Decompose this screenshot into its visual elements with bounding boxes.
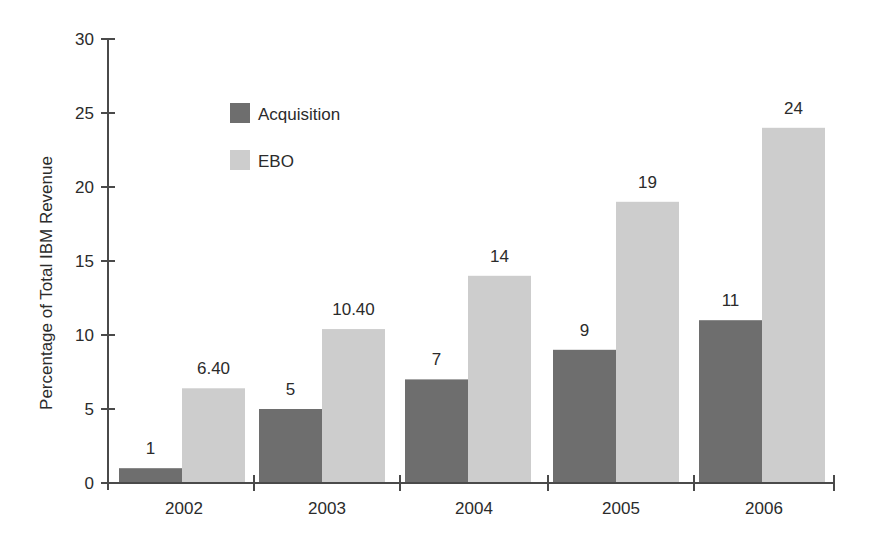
y-tick-label: 30	[75, 30, 94, 49]
bar-ebo-2004	[468, 276, 531, 483]
bar-acquisition-2005	[553, 350, 616, 483]
legend-label-acquisition: Acquisition	[258, 105, 340, 124]
y-axis: 051015202530	[75, 30, 115, 493]
x-tick-label-2004: 2004	[455, 499, 493, 518]
bar-acquisition-2003	[259, 409, 322, 483]
y-tick-label: 25	[75, 104, 94, 123]
bar-value-label: 19	[638, 173, 657, 192]
x-tick-label-2002: 2002	[165, 499, 203, 518]
y-tick-label: 0	[85, 474, 94, 493]
bar-value-label: 9	[580, 321, 589, 340]
bar-value-label: 6.40	[197, 359, 230, 378]
x-tick-label-2006: 2006	[745, 499, 783, 518]
y-tick-label: 20	[75, 178, 94, 197]
bar-value-label: 5	[286, 380, 295, 399]
bar-acquisition-2002	[119, 468, 182, 483]
x-tick-label-2005: 2005	[602, 499, 640, 518]
bar-chart: 16.40510.407149191124 051015202530 20022…	[0, 0, 871, 553]
bar-value-label: 7	[432, 350, 441, 369]
bar-value-label: 24	[784, 99, 803, 118]
bars-group	[119, 128, 825, 483]
y-tick-label: 10	[75, 326, 94, 345]
bar-value-label: 10.40	[332, 300, 375, 319]
bar-value-label: 14	[490, 247, 509, 266]
bar-acquisition-2004	[405, 379, 468, 483]
bar-ebo-2006	[762, 128, 825, 483]
bar-ebo-2003	[322, 329, 385, 483]
y-axis-label: Percentage of Total IBM Revenue	[37, 156, 56, 410]
y-tick-label: 5	[85, 400, 94, 419]
legend-label-ebo: EBO	[258, 152, 294, 171]
legend-swatch-acquisition	[230, 103, 250, 123]
bar-value-label: 11	[722, 291, 740, 310]
legend: Acquisition EBO	[230, 103, 340, 171]
x-tick-label-2003: 2003	[308, 499, 346, 518]
y-tick-label: 15	[75, 252, 94, 271]
bar-value-label: 1	[146, 439, 155, 458]
legend-swatch-ebo	[230, 150, 250, 170]
bar-ebo-2002	[182, 388, 245, 483]
bar-acquisition-2006	[699, 320, 762, 483]
bar-ebo-2005	[616, 202, 679, 483]
